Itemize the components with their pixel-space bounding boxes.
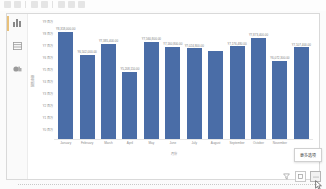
- x-axis-title: 月份: [33, 151, 314, 156]
- bar-rect[interactable]: [187, 48, 202, 139]
- bar-item[interactable]: ¥7,873,400.00 October: [248, 23, 269, 139]
- horizontal-scroll-rule[interactable]: [18, 184, 318, 185]
- bar-value-label: ¥7,160,800.00: [163, 42, 182, 46]
- copy-icon[interactable]: [68, 1, 75, 8]
- y-tick-label: ¥2 百万: [33, 104, 53, 108]
- y-tick-label: ¥1 百万: [33, 116, 53, 120]
- bar-rect[interactable]: [208, 51, 223, 139]
- y-tick-label: ¥7 百万: [33, 44, 53, 48]
- bar-value-label: ¥7,024,800.00: [185, 44, 204, 48]
- x-tick-label: September: [230, 141, 245, 145]
- bar-chart-icon[interactable]: [11, 17, 24, 29]
- x-tick-label: June: [169, 141, 176, 145]
- bar-value-label: ¥7,176,480.00: [227, 42, 246, 46]
- x-tick-label: March: [104, 141, 113, 145]
- more-options-icon[interactable]: [310, 171, 321, 182]
- funnel-icon[interactable]: [282, 172, 291, 181]
- toolbar-divider: [25, 1, 26, 8]
- bar-item[interactable]: ¥7,385,400.00 March: [98, 23, 119, 139]
- save-icon[interactable]: [41, 1, 48, 8]
- y-axis-title: 销售金额: [31, 75, 35, 87]
- bar-rect[interactable]: [144, 42, 159, 139]
- bar-rect[interactable]: [272, 61, 287, 139]
- paste-icon[interactable]: [78, 1, 85, 8]
- chart-controls: [282, 171, 321, 182]
- bar-rect[interactable]: [165, 47, 180, 139]
- x-tick-label: August: [211, 141, 221, 145]
- x-tick-label: April: [127, 141, 133, 145]
- x-tick-label: November: [273, 141, 287, 145]
- y-tick-label: ¥8 百万: [33, 32, 53, 36]
- bar-value-label: ¥7,385,400.00: [99, 39, 118, 43]
- sidebar-selection-indicator: [7, 16, 9, 31]
- x-tick-label: July: [191, 141, 197, 145]
- y-tick-label: ¥3 百万: [33, 92, 53, 96]
- menu-icon[interactable]: [4, 1, 11, 8]
- x-tick-label: October: [253, 141, 264, 145]
- y-tick-label: ¥9 百万: [33, 20, 53, 24]
- bar-value-label: ¥7,107,400.00: [292, 43, 311, 47]
- gear-chart-icon[interactable]: [11, 63, 24, 75]
- app-toolbar: [0, 0, 326, 11]
- bar-rect[interactable]: [251, 38, 266, 140]
- bar-rect[interactable]: [58, 32, 73, 139]
- y-tick-label: ¥6 百万: [33, 56, 53, 60]
- bar-value-label: ¥7,873,400.00: [249, 33, 268, 37]
- bar-value-label: ¥8,318,000.00: [56, 27, 75, 31]
- cut-icon[interactable]: [58, 1, 65, 8]
- square-icon[interactable]: [295, 171, 306, 182]
- bar-value-label: ¥6,502,000.00: [78, 50, 97, 54]
- y-tick-label: ¥4 百万: [33, 80, 53, 84]
- bar-value-label: ¥6,072,300.00: [270, 56, 289, 60]
- bar-item[interactable]: ¥7,176,480.00 September: [226, 23, 247, 139]
- bar-item[interactable]: ¥6,502,000.00 February: [76, 23, 97, 139]
- bar-item[interactable]: ¥7,107,400.00: [291, 23, 312, 139]
- bar-rect[interactable]: [294, 47, 309, 139]
- bar-rect[interactable]: [101, 44, 116, 139]
- y-tick-label: ¥0 百万: [33, 128, 53, 132]
- bar-item[interactable]: ¥6,072,300.00 November: [269, 23, 290, 139]
- bar-item[interactable]: ¥8,318,000.00 January: [55, 23, 76, 139]
- table-grid-icon[interactable]: [11, 40, 24, 52]
- toolbar-divider: [52, 1, 53, 8]
- bar-item[interactable]: ¥7,160,800.00 June: [162, 23, 183, 139]
- bar-series: ¥8,318,000.00 January ¥6,502,000.00 Febr…: [55, 23, 312, 139]
- bar-rect[interactable]: [230, 46, 245, 139]
- bar-rect[interactable]: [80, 55, 95, 139]
- bar-value-label: ¥5,208,110.00: [120, 67, 139, 71]
- chart-plot-area: ¥9 百万 ¥8 百万 ¥7 百万 ¥6 百万 ¥5 百万 ¥4 百万 ¥3 百…: [33, 17, 314, 157]
- bar-value-label: ¥7,560,800.00: [142, 37, 161, 41]
- bar-item[interactable]: August: [205, 23, 226, 139]
- redo-icon[interactable]: [31, 1, 38, 8]
- more-options-tooltip: 更多选项: [294, 148, 322, 162]
- x-tick-label: May: [148, 141, 154, 145]
- x-axis-line: [54, 139, 313, 140]
- y-tick-label: ¥5 百万: [33, 68, 53, 72]
- bar-item[interactable]: ¥7,024,800.00 July: [184, 23, 205, 139]
- bar-item[interactable]: ¥5,208,110.00 April: [119, 23, 140, 139]
- x-tick-label: January: [60, 141, 71, 145]
- x-tick-label: February: [81, 141, 93, 145]
- bar-item[interactable]: ¥7,560,800.00 May: [141, 23, 162, 139]
- chart-panel-screen: ¥9 百万 ¥8 百万 ¥7 百万 ¥6 百万 ¥5 百万 ¥4 百万 ¥3 百…: [0, 0, 326, 189]
- undo-icon[interactable]: [14, 1, 21, 8]
- view-sidebar: [7, 14, 28, 179]
- bar-rect[interactable]: [122, 72, 137, 139]
